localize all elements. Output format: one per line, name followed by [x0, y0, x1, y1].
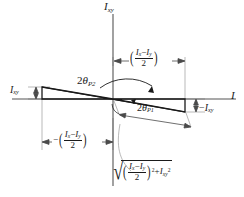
- label-left-ixy: Ixy: [10, 85, 19, 96]
- dim-label-top-right: (Ix−Iy2): [129, 48, 158, 69]
- axis-label-ixy: Ixy: [104, 1, 114, 13]
- dim-hypotenuse-seg: [120, 115, 190, 126]
- dim-right-ixy-arrow-bottom: [194, 106, 199, 112]
- ext-line-hyp-start: [114, 101, 119, 114]
- label-angle-2theta-p2: 2θP2: [77, 75, 95, 87]
- dim-left-ixy: [34, 87, 39, 99]
- dim-bottom-left-sign: −: [53, 134, 58, 144]
- dim-label-bottom-left: −(Ix−Iy2): [53, 130, 88, 151]
- label-right-neg-ixy-sub: xy: [208, 106, 214, 113]
- label-p2-sub: P2: [88, 80, 96, 87]
- dim-top-right-arrow-right: [178, 59, 185, 64]
- arc-p2-path: [100, 79, 152, 88]
- label-right-neg-ixy: −Ixy: [199, 103, 213, 114]
- dim-bottom-left-arrow-left: [42, 140, 49, 145]
- radical-paren-close: ): [147, 164, 151, 180]
- dim-left-ixy-arrow-top: [34, 87, 39, 93]
- dim-bottom-left-arrow-right: [106, 140, 113, 145]
- label-radical-expression: √(Ix−Iy2)2+Ixy2: [112, 160, 175, 183]
- radical-fraction: Ix−Iy2: [128, 162, 146, 183]
- radical-term2-power: 2: [168, 167, 171, 173]
- axis-label-i: I: [231, 90, 235, 101]
- dim-top-right-paren-close: ): [154, 50, 158, 66]
- radical-body: (Ix−Iy2)2+Ixy2: [121, 160, 172, 183]
- angle-arc-2theta-P2: [100, 79, 154, 93]
- dim-hypotenuse: [119, 113, 191, 128]
- dim-bottom-left-paren-open: (: [59, 132, 63, 148]
- dim-left-ixy-arrow-bottom: [34, 94, 39, 100]
- rad-b-sub: y: [143, 165, 145, 171]
- label-left-ixy-sub: xy: [13, 88, 19, 95]
- inertia-mohr-diagram: Ixy I Ixy −Ixy 2θP2 2θP1 (Ix−Iy2) −(Ix−I…: [0, 0, 244, 197]
- radical-denominator: 2: [128, 173, 146, 182]
- dim-top-right-fraction: Ix−Iy2: [135, 48, 153, 69]
- dim-bottom-left-denominator: 2: [64, 141, 82, 150]
- dim-bottom-left-fraction: Ix−Iy2: [64, 130, 82, 151]
- dim-hypotenuse-arrow-start: [119, 113, 126, 118]
- label-p1-sub: P1: [147, 106, 154, 113]
- dim-top-right-denominator: 2: [135, 59, 153, 68]
- arc-p2-arrowhead: [148, 86, 154, 93]
- dtr-b-sub: y: [149, 51, 151, 57]
- dim-top-right-arrow-left: [114, 59, 121, 64]
- radical-paren-open: (: [123, 164, 127, 180]
- dbl-b-sub: y: [78, 133, 80, 139]
- dim-right-ixy-arrow-top: [194, 99, 199, 105]
- axis-label-ixy-sub: xy: [108, 6, 114, 13]
- extension-lines: [28, 57, 205, 171]
- dim-top-right-paren-open: (: [130, 50, 134, 66]
- label-angle-2theta-p1: 2θP1: [137, 103, 154, 114]
- dim-bottom-left-paren-close: ): [83, 132, 87, 148]
- dim-right-ixy: [194, 99, 199, 112]
